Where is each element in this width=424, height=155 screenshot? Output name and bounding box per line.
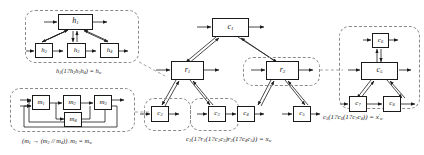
node-m1-label: m1 (37, 99, 44, 106)
caption-group-m: (m1 → (m2 // m4))+m3 = mw (22, 138, 92, 145)
node-c6[interactable]: c6 (372, 33, 389, 48)
node-c8[interactable]: c8 (383, 96, 401, 112)
node-m1[interactable]: m1 (32, 95, 50, 110)
node-c2[interactable]: c2 (151, 106, 169, 122)
node-c6-label: c6 (378, 37, 383, 44)
node-r1[interactable]: r1 (171, 61, 204, 80)
node-c2-label: c2 (157, 110, 162, 117)
node-c5[interactable]: c5 (293, 106, 311, 122)
node-h2-label: h2 (41, 47, 47, 54)
diagram-root: h1 h2 h3 h4 m1 m2 m3 m4 c1 r1 r2 c2 c3 c… (0, 0, 424, 155)
node-h1-label: h1 (72, 17, 78, 26)
node-c5-right[interactable]: c5 (361, 62, 398, 80)
node-r2-label: r2 (280, 66, 286, 75)
node-c5-label: c5 (299, 110, 304, 117)
node-m2-label: m2 (68, 99, 75, 106)
node-c4[interactable]: c4 (237, 106, 255, 122)
node-r1-label: r1 (185, 66, 191, 75)
node-c5-right-label: c5 (376, 66, 382, 75)
node-c7-label: c7 (355, 100, 360, 107)
node-h4-label: h4 (107, 47, 113, 54)
caption-group-right: c5(1?c6(1?c7c8)) = x′w (323, 114, 383, 121)
node-r2[interactable]: r2 (266, 61, 299, 80)
node-m3[interactable]: m3 (94, 95, 112, 110)
node-h3-label: h3 (74, 47, 80, 54)
link-h-to-r1 (139, 62, 165, 76)
node-m3-label: m3 (99, 99, 106, 106)
node-m4-label: m4 (69, 116, 76, 123)
node-m2[interactable]: m2 (63, 95, 81, 110)
node-c7[interactable]: c7 (349, 96, 367, 112)
node-c1[interactable]: c1 (212, 18, 249, 37)
node-h2[interactable]: h2 (35, 43, 53, 58)
node-c3[interactable]: c3 (208, 106, 226, 122)
caption-group-center: c1(1?r1(1?c2c3)r2(1?c4c5)) = xw (186, 136, 271, 143)
node-h3[interactable]: h3 (67, 43, 86, 58)
caption-group-h: h1(1?h2h3h4) = hw (56, 68, 101, 75)
node-m4[interactable]: m4 (64, 112, 82, 127)
node-h4[interactable]: h4 (100, 43, 119, 58)
node-h1[interactable]: h1 (58, 14, 93, 30)
node-c4-label: c4 (243, 110, 248, 117)
node-c1-label: c1 (227, 23, 233, 32)
node-c8-label: c8 (389, 100, 394, 107)
node-c3-label: c3 (214, 110, 219, 117)
